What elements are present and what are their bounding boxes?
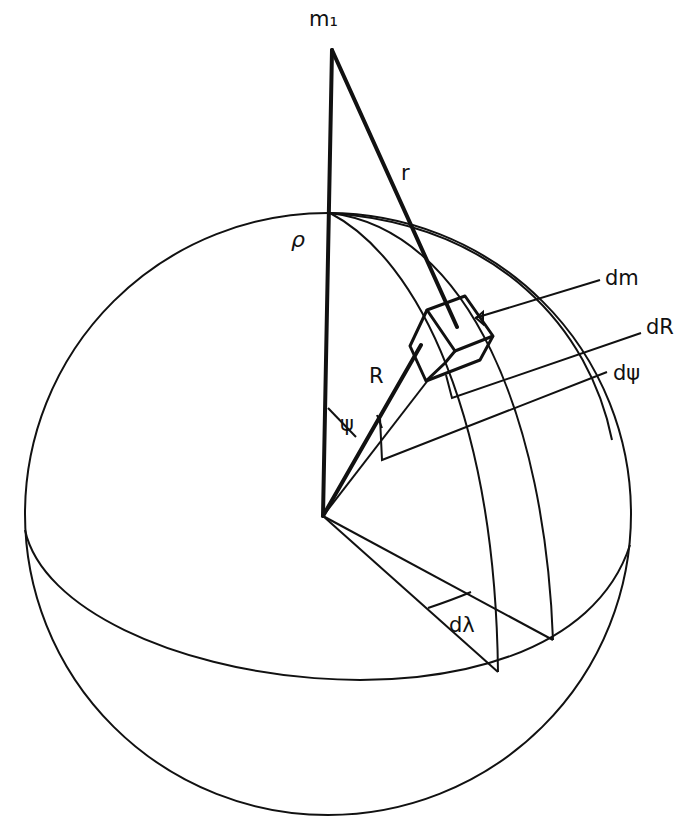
- label-rho: ρ: [291, 227, 305, 252]
- label-m1: m₁: [309, 7, 338, 31]
- label-dm: dm: [605, 266, 639, 290]
- sphere-diagram: m₁ r ρ R ψ dm dR dψ dλ: [0, 0, 684, 822]
- wedge-line-2: [323, 516, 553, 640]
- equator-arc: [25, 530, 630, 680]
- label-psi: ψ: [340, 412, 354, 436]
- label-R: R: [369, 364, 384, 388]
- radius-R-inner: [323, 375, 432, 516]
- axis-m1-to-center: [323, 50, 332, 516]
- dlambda-arc: [428, 592, 471, 608]
- meridian-arc-2: [330, 213, 553, 640]
- label-dR: dR: [646, 315, 674, 339]
- dpsi-leader: [380, 372, 607, 460]
- dm-leader: [475, 280, 600, 318]
- label-dlambda: dλ: [449, 613, 475, 637]
- meridian-arc-3: [330, 213, 612, 440]
- wedge-line-1: [323, 516, 498, 672]
- meridian-arc-1: [330, 213, 498, 672]
- line-r: [332, 50, 457, 327]
- label-r: r: [401, 161, 410, 185]
- label-dpsi: dψ: [613, 361, 640, 385]
